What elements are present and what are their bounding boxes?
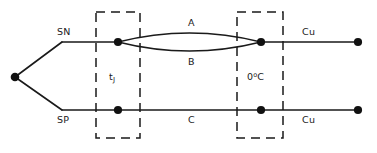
wire-sn-branch — [15, 42, 62, 77]
label-reference-temperature: 0oC — [247, 72, 264, 82]
label-reference-unit: C — [257, 71, 264, 82]
label-sn: SN — [57, 27, 71, 37]
node-common-vertex — [11, 73, 20, 82]
wire-sp-branch — [15, 77, 62, 110]
label-conductor-b: B — [188, 57, 195, 67]
label-copper-top: Cu — [302, 27, 315, 37]
node-junction-lower-left — [114, 106, 122, 114]
node-junction-lower-right — [257, 106, 265, 114]
terminal-node-upper — [354, 38, 362, 46]
thermocouple-diagram: SN SP A B C tJ 0oC Cu Cu — [0, 0, 377, 153]
label-sp: SP — [57, 115, 69, 125]
dashed-box-junction — [96, 12, 140, 138]
label-junction-temperature-subscript: J — [113, 76, 115, 84]
label-conductor-c: C — [188, 115, 195, 125]
label-junction-temperature: tJ — [109, 72, 115, 84]
label-copper-bottom: Cu — [302, 115, 315, 125]
label-conductor-a: A — [188, 18, 195, 28]
node-junction-upper-right — [257, 38, 265, 46]
node-junction-upper-left — [114, 38, 122, 46]
terminal-node-lower — [354, 106, 362, 114]
